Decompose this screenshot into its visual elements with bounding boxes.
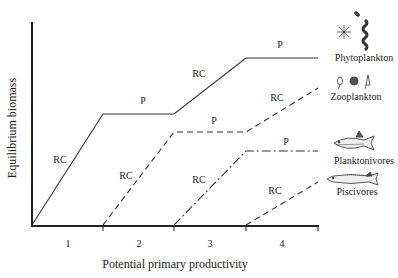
phytoplankton-line xyxy=(32,58,318,225)
phyto-p-label-1: P xyxy=(140,95,146,106)
x-axis-title: Potential primary productivity xyxy=(102,257,247,271)
phyto-rc-label-1: RC xyxy=(53,154,67,165)
pisc-rc-label-1: RC xyxy=(268,185,282,196)
piscivore-fish-icon xyxy=(327,172,382,185)
x-tick-2: 2 xyxy=(137,238,142,249)
piscivores-line xyxy=(246,182,318,225)
planktivore-fish-icon xyxy=(334,131,374,150)
zooplankton-icon xyxy=(338,75,371,89)
zooplankton-line xyxy=(103,88,318,225)
zoo-rc-label-1: RC xyxy=(119,170,133,181)
y-axis-title: Equilibrium biomass xyxy=(5,78,19,179)
planktivores-label: Planktonivores xyxy=(334,155,394,166)
food-chain-diagram: 1 2 3 4 Potential primary productivity E… xyxy=(0,0,398,278)
phytoplankton-icon xyxy=(337,11,367,50)
planktivores-line xyxy=(174,151,318,225)
phyto-rc-label-2: RC xyxy=(192,68,206,79)
phytoplankton-label: Phytoplankton xyxy=(335,52,393,63)
x-tick-1: 1 xyxy=(66,238,71,249)
piscivores-label: Piscivores xyxy=(336,186,377,197)
zooplankton-label: Zooplankton xyxy=(330,91,381,102)
x-tick-4: 4 xyxy=(280,238,285,249)
plank-p-label-1: P xyxy=(283,136,289,147)
plank-rc-label-1: RC xyxy=(192,174,206,185)
zoo-rc-label-2: RC xyxy=(270,92,284,103)
x-tick-3: 3 xyxy=(208,238,213,249)
phyto-p-label-2: P xyxy=(277,39,283,50)
zoo-p-label-1: P xyxy=(211,115,217,126)
